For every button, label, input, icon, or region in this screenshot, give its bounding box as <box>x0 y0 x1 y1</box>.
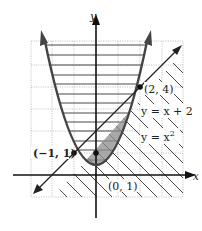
point-label-0-1: (0, 1) <box>108 180 138 193</box>
parabola-label: y = x2 <box>140 129 175 144</box>
x-axis-label: x <box>193 170 200 183</box>
point-0-1 <box>93 150 99 156</box>
point-label-2-4: (2, 4) <box>144 83 174 96</box>
region-diagram: y x (−1, 1) (0, 1) (2, 4) y = x + 2 y = … <box>0 0 202 231</box>
line-label: y = x + 2 <box>140 105 193 118</box>
y-axis-label: y <box>89 10 97 23</box>
point-2-4 <box>137 84 143 90</box>
parabola-left-arrow-icon <box>40 30 48 46</box>
parabola-right-arrow-icon <box>144 30 152 46</box>
point-label-neg1-1: (−1, 1) <box>33 147 76 160</box>
